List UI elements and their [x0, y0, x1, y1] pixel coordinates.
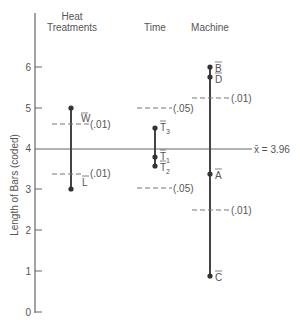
mean-label-C: C [215, 272, 222, 283]
y-tick-labels: 0 1 2 3 4 5 6 [25, 62, 31, 318]
group-header-heat: Heat [61, 11, 82, 22]
tick-label-1: 1 [25, 266, 31, 277]
tick-label-6: 6 [25, 62, 31, 73]
decision-label: (.01) [231, 93, 252, 104]
decision-label: (.01) [90, 119, 111, 130]
group-machine: B D (.01) A (.01) C [192, 62, 252, 283]
decision-label: (.01) [90, 168, 111, 179]
mean-label-L: L [82, 177, 88, 188]
group-header-heat-2: Treatments [47, 22, 97, 33]
tick-label-3: 3 [25, 184, 31, 195]
tick-label-4: 4 [25, 143, 31, 154]
mean-label-D: D [215, 74, 222, 85]
mean-label-T1-sub: 1 [166, 157, 170, 164]
y-axis-label: Length of Bars (coded) [9, 134, 20, 236]
decision-label: (.05) [173, 103, 194, 114]
mean-label-T3-sub: 3 [166, 128, 170, 135]
tick-label-2: 2 [25, 225, 31, 236]
chart: 0 1 2 3 4 5 6 Length of Bars (coded) x̄ … [0, 0, 300, 327]
decision-label: (.01) [231, 205, 252, 216]
y-ticks [35, 67, 42, 312]
grand-mean-label: x̄ = 3.96 [254, 144, 290, 155]
mean-label-A: A [215, 170, 222, 181]
tick-label-0: 0 [25, 307, 31, 318]
decision-label: (.05) [173, 183, 194, 194]
mean-label-B: B [215, 63, 222, 74]
group-header-machine: Machine [191, 22, 229, 33]
group-header-time: Time [144, 22, 166, 33]
tick-label-5: 5 [25, 103, 31, 114]
mean-label-T2-sub: 2 [166, 168, 170, 175]
